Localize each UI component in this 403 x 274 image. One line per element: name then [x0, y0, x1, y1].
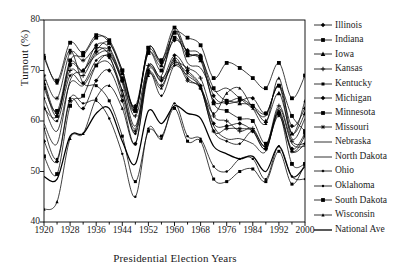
legend-key-icon — [313, 208, 333, 222]
series-line — [42, 46, 307, 154]
legend-key-icon — [313, 223, 333, 237]
data-series-layer — [42, 26, 308, 211]
legend-item[interactable]: Wisconsin — [313, 208, 403, 223]
legend-item[interactable]: Oklahoma — [313, 179, 403, 194]
legend-item[interactable]: Nebraska — [313, 135, 403, 150]
legend-item-label: Michigan — [333, 94, 371, 104]
legend-item[interactable]: Indiana — [313, 33, 403, 48]
legend-item[interactable]: Kansas — [313, 62, 403, 77]
legend-item-label: National Ave — [333, 225, 385, 235]
legend-item[interactable]: National Ave — [313, 222, 403, 237]
legend-key-icon — [313, 150, 333, 164]
legend-item-label: Nebraska — [333, 137, 371, 147]
legend-key-icon — [313, 120, 333, 134]
chart-figure: Turnout (%) Presidential Election Years … — [0, 0, 403, 274]
legend-key-icon — [313, 106, 333, 120]
legend-key-icon — [313, 77, 333, 91]
legend-item-label: Illinois — [333, 21, 362, 31]
legend-item-label: Missouri — [333, 123, 369, 133]
legend-item[interactable]: Kentucky — [313, 76, 403, 91]
legend-key-icon — [313, 18, 333, 32]
legend-item-label: Ohio — [333, 166, 354, 176]
legend-item-label: Wisconsin — [333, 210, 375, 220]
legend-key-icon — [313, 62, 333, 76]
legend-item-label: Oklahoma — [333, 181, 375, 191]
legend-key-icon — [313, 33, 333, 47]
series-line — [43, 49, 307, 186]
legend-item[interactable]: South Dakota — [313, 193, 403, 208]
legend-item-label: Kansas — [333, 64, 362, 74]
legend-key-icon — [313, 135, 333, 149]
legend-item-label: South Dakota — [333, 196, 387, 206]
legend-item-label: Kentucky — [333, 79, 372, 89]
legend-item[interactable]: North Dakota — [313, 149, 403, 164]
legend-item[interactable]: Michigan — [313, 91, 403, 106]
legend-item-label: Indiana — [333, 35, 364, 45]
legend-key-icon — [313, 164, 333, 178]
legend-item[interactable]: Iowa — [313, 47, 403, 62]
legend-item[interactable]: Missouri — [313, 120, 403, 135]
series-line — [42, 56, 306, 211]
legend-key-icon — [313, 179, 333, 193]
legend-item-label: North Dakota — [333, 152, 387, 162]
chart-legend: IllinoisIndianaIowaKansasKentuckyMichiga… — [313, 18, 403, 237]
legend-item[interactable]: Minnesota — [313, 106, 403, 121]
legend-key-icon — [313, 47, 333, 61]
legend-item[interactable]: Ohio — [313, 164, 403, 179]
legend-item-label: Minnesota — [333, 108, 375, 118]
series-line — [42, 48, 307, 148]
legend-key-icon — [313, 193, 333, 207]
legend-item-label: Iowa — [333, 50, 354, 60]
legend-key-icon — [313, 91, 333, 105]
legend-item[interactable]: Illinois — [313, 18, 403, 33]
